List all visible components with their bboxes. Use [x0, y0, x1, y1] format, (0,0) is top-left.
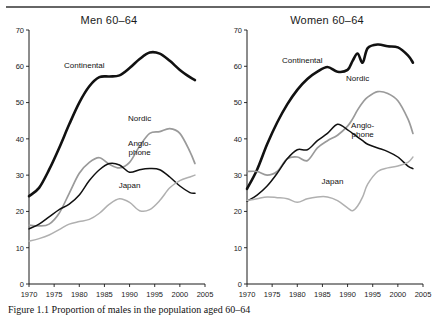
series-label-anglo-phone: Anglo- — [351, 121, 374, 130]
series-label-continental: Continental — [282, 56, 323, 65]
svg-text:2005: 2005 — [415, 290, 432, 299]
svg-text:50: 50 — [16, 98, 24, 107]
series-label-japan: Japan — [119, 181, 141, 190]
svg-text:70: 70 — [16, 26, 24, 35]
svg-text:2000: 2000 — [172, 290, 189, 299]
svg-text:30: 30 — [16, 171, 24, 180]
svg-text:60: 60 — [16, 62, 24, 71]
chart-panel-men: Men 60–64 010203040506070197019751980198… — [0, 14, 218, 304]
figure-caption: Figure 1.1 Proportion of males in the po… — [8, 304, 428, 315]
svg-text:1975: 1975 — [264, 290, 281, 299]
svg-text:10: 10 — [16, 244, 24, 253]
svg-text:1985: 1985 — [96, 290, 113, 299]
plot-area-women: 0102030405060701970197519801985199019952… — [218, 14, 436, 304]
series-label-anglo-phone-line2: phone — [129, 148, 152, 157]
svg-text:40: 40 — [234, 135, 242, 144]
series-label-continental: Continental — [64, 61, 105, 70]
svg-text:50: 50 — [234, 98, 242, 107]
svg-text:2005: 2005 — [197, 290, 214, 299]
top-horizontal-rule — [6, 6, 430, 8]
series-label-nordic: Nordic — [346, 74, 369, 83]
svg-text:1990: 1990 — [121, 290, 138, 299]
series-label-nordic: Nordic — [128, 114, 151, 123]
svg-text:1975: 1975 — [46, 290, 63, 299]
svg-text:1985: 1985 — [314, 290, 331, 299]
series-continental — [29, 52, 195, 196]
svg-text:20: 20 — [234, 207, 242, 216]
svg-text:30: 30 — [234, 171, 242, 180]
line-chart-women-svg: 0102030405060701970197519801985199019952… — [218, 14, 436, 304]
svg-text:10: 10 — [234, 244, 242, 253]
svg-text:1980: 1980 — [71, 290, 88, 299]
svg-text:0: 0 — [20, 280, 24, 289]
series-label-anglo-phone-line2: phone — [352, 130, 375, 139]
series-japan — [29, 175, 195, 241]
series-label-anglo-phone: Anglo- — [128, 139, 151, 148]
svg-text:2000: 2000 — [390, 290, 407, 299]
svg-text:40: 40 — [16, 135, 24, 144]
svg-text:1980: 1980 — [289, 290, 306, 299]
svg-text:1970: 1970 — [239, 290, 256, 299]
svg-text:1995: 1995 — [364, 290, 381, 299]
svg-text:1995: 1995 — [146, 290, 163, 299]
plot-area-men: 0102030405060701970197519801985199019952… — [0, 14, 218, 304]
line-chart-men-svg: 0102030405060701970197519801985199019952… — [0, 14, 218, 304]
svg-text:0: 0 — [238, 280, 242, 289]
svg-text:1970: 1970 — [21, 290, 38, 299]
series-label-japan: Japan — [322, 177, 344, 186]
svg-text:60: 60 — [234, 62, 242, 71]
chart-panel-women: Women 60–64 0102030405060701970197519801… — [218, 14, 436, 304]
svg-text:70: 70 — [234, 26, 242, 35]
svg-text:1990: 1990 — [339, 290, 356, 299]
svg-text:20: 20 — [16, 207, 24, 216]
